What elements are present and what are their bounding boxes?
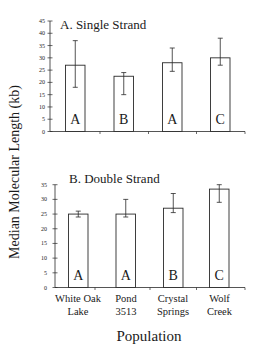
group-letter: B — [169, 268, 178, 283]
y-axis-title: Median Molecular Length (kb) — [7, 85, 23, 259]
y-tick-label: 30 — [39, 55, 45, 61]
y-tick-label: 20 — [39, 79, 45, 85]
group-letter: C — [215, 268, 224, 283]
y-tick-label: 40 — [39, 30, 45, 36]
group-letter: A — [73, 268, 84, 283]
y-tick-label: 15 — [39, 92, 45, 98]
group-letter: A — [167, 112, 178, 127]
y-tick-label: 25 — [39, 67, 45, 73]
category-label: Creek — [207, 306, 233, 317]
group-letter: A — [121, 268, 132, 283]
panel-b-double-strand: B. Double Strand05101520253035AABC — [41, 171, 245, 291]
y-tick-label: 0 — [42, 129, 45, 135]
group-letter: A — [70, 112, 81, 127]
y-tick-label: 35 — [39, 43, 45, 49]
y-tick-label: 35 — [41, 182, 47, 188]
group-letter: B — [119, 112, 128, 127]
panel-a-single-strand: A. Single Strand051015202530354045ABAC — [39, 17, 245, 135]
group-letter: C — [216, 112, 225, 127]
panel-title: A. Single Strand — [60, 17, 147, 32]
panel-title: B. Double Strand — [69, 171, 160, 186]
y-tick-label: 20 — [41, 226, 47, 232]
category-labels: White OakLakePond3513CrystalSpringsWolfC… — [55, 293, 233, 318]
y-tick-label: 5 — [42, 116, 45, 122]
y-tick-label: 45 — [39, 18, 45, 24]
y-tick-label: 0 — [44, 285, 47, 291]
y-tick-label: 10 — [41, 255, 47, 261]
category-label: Lake — [68, 306, 89, 317]
y-tick-label: 15 — [41, 240, 47, 246]
figure: A. Single Strand051015202530354045ABAC B… — [0, 0, 260, 362]
y-tick-label: 10 — [39, 104, 45, 110]
category-label: Wolf — [209, 293, 230, 304]
y-tick-label: 30 — [41, 196, 47, 202]
category-label: Crystal — [158, 293, 188, 304]
category-label: White Oak — [55, 293, 102, 304]
category-label: 3513 — [116, 306, 137, 317]
category-label: Springs — [157, 306, 189, 317]
y-tick-label: 5 — [44, 270, 47, 276]
y-tick-label: 25 — [41, 211, 47, 217]
x-axis-title: Population — [116, 328, 182, 344]
category-label: Pond — [115, 293, 137, 304]
